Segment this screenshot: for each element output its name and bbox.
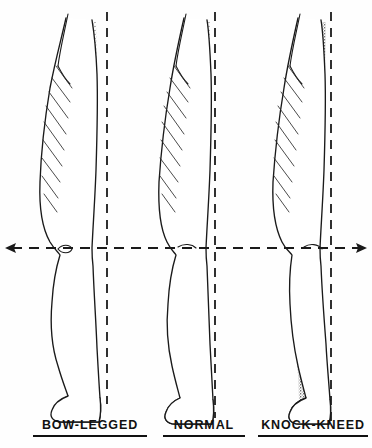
caption-row: BOW-LEGGED NORMAL KNOCK-KNEED [0,418,372,448]
panel-bow-legged [40,12,107,422]
panel-knock-kneed [273,12,331,424]
leg-outline [273,18,331,424]
leg-outline [159,18,214,424]
figure-canvas [0,0,372,448]
caption-normal: NORMAL [163,418,245,437]
caption-bow-legged: BOW-LEGGED [33,418,147,437]
caption-knock-kneed: KNOCK-KNEED [258,418,368,437]
leg-alignment-figure: BOW-LEGGED NORMAL KNOCK-KNEED [0,0,372,448]
panel-normal [159,12,215,424]
leg-outline [40,18,101,422]
